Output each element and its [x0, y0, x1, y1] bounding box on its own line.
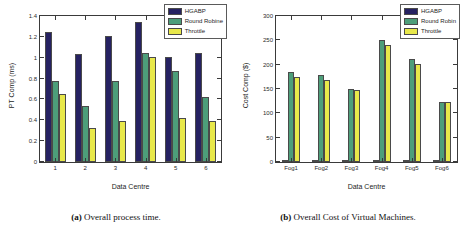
- y-axis-tick-label: 150: [263, 86, 273, 92]
- bar-hgabp: [135, 22, 142, 162]
- legend-swatch-icon: [168, 28, 182, 35]
- x-axis-tick-label: 6: [204, 165, 207, 171]
- y-axis-tick: [40, 15, 44, 16]
- y-axis-tick: [40, 140, 44, 141]
- bar-round-robine: [52, 81, 59, 162]
- bar-group: [135, 16, 156, 162]
- bar-round-robine: [82, 106, 89, 162]
- x-axis-tick: [321, 158, 322, 162]
- x-axis-tick: [291, 158, 292, 162]
- panel-b-legend: HGABPRound RobinThrottle: [400, 4, 460, 39]
- x-axis-tick-label: Fog2: [314, 165, 328, 171]
- bar-group: [342, 16, 360, 162]
- y-axis-tick-right: [217, 57, 221, 58]
- y-axis-tick-right: [217, 140, 221, 141]
- y-axis-tick: [40, 119, 44, 120]
- bar-hgabp: [105, 36, 112, 162]
- x-axis-tick-label: Fog3: [345, 165, 359, 171]
- y-axis-tick-label: 1: [34, 55, 37, 61]
- bar-throttle: [445, 102, 451, 162]
- x-axis-tick-top: [146, 16, 147, 20]
- y-axis-tick: [276, 39, 280, 40]
- legend-item: HGABP: [404, 7, 456, 16]
- panel-b-cost: 050100150200250300Fog1Fog2Fog3Fog4Fog5Fo…: [232, 0, 464, 228]
- x-axis-tick-label: 2: [84, 165, 87, 171]
- y-axis-tick-right: [453, 112, 457, 113]
- y-axis-tick: [40, 78, 44, 79]
- y-axis-tick: [276, 88, 280, 89]
- bar-throttle: [119, 121, 126, 162]
- y-axis-tick: [40, 98, 44, 99]
- y-axis-tick: [40, 57, 44, 58]
- bar-throttle: [415, 64, 421, 162]
- x-axis-tick-label: Fog5: [405, 165, 419, 171]
- y-axis-tick-label: 100: [263, 110, 273, 116]
- y-axis-tick-label: 0: [34, 159, 37, 165]
- legend-item: Throttle: [404, 27, 456, 36]
- bar-throttle: [324, 80, 330, 162]
- panel-b-caption-tag: (b): [280, 212, 291, 222]
- x-axis-tick-label: 1: [53, 165, 56, 171]
- x-axis-tick-label: Fog6: [435, 165, 449, 171]
- y-axis-tick: [40, 36, 44, 37]
- y-axis-tick-label: 0: [270, 159, 273, 165]
- bar-group: [105, 16, 126, 162]
- panel-a-caption: (a) Overall process time.: [0, 212, 232, 222]
- legend-item: Throttle: [168, 27, 223, 36]
- y-axis-tick-label: 0.4: [29, 117, 37, 123]
- x-axis-tick: [351, 158, 352, 162]
- x-axis-tick-top: [55, 16, 56, 20]
- bar-group: [282, 16, 300, 162]
- x-axis-tick-top: [382, 16, 383, 20]
- x-axis-tick: [115, 158, 116, 162]
- x-axis-tick-label: 4: [144, 165, 147, 171]
- x-axis-tick: [382, 158, 383, 162]
- legend-item-label: Round Robin: [421, 18, 456, 25]
- legend-item-label: HGABP: [421, 8, 442, 15]
- bar-group: [373, 16, 391, 162]
- legend-swatch-icon: [168, 18, 182, 25]
- panel-b-x-axis-title: Data Centre: [275, 183, 458, 190]
- bar-group: [45, 16, 66, 162]
- y-axis-tick-right: [217, 78, 221, 79]
- y-axis-tick: [40, 161, 44, 162]
- y-axis-tick-right: [453, 137, 457, 138]
- panel-b-plot-area: 050100150200250300Fog1Fog2Fog3Fog4Fog5Fo…: [232, 0, 464, 196]
- y-axis-tick-right: [217, 119, 221, 120]
- bar-round-robine: [202, 97, 209, 162]
- bar-throttle: [89, 128, 96, 162]
- panel-a-caption-text: Overall process time.: [84, 212, 161, 222]
- y-axis-tick: [276, 137, 280, 138]
- y-axis-tick-right: [453, 161, 457, 162]
- panel-a-x-axis-title: Data Centre: [39, 183, 222, 190]
- x-axis-tick-top: [321, 16, 322, 20]
- panel-b-caption-text: Overall Cost of Virtual Machines.: [294, 212, 416, 222]
- x-axis-tick-label: Fog4: [375, 165, 389, 171]
- panel-a-process-time: 00.20.40.60.811.21.4123456 PT Comp (ms) …: [0, 0, 232, 228]
- panel-a-y-axis-title: PT Comp (ms): [8, 49, 15, 123]
- y-axis-tick-right: [217, 161, 221, 162]
- bar-hgabp: [45, 32, 52, 162]
- bar-throttle: [385, 45, 391, 162]
- y-axis-tick: [276, 112, 280, 113]
- figure-two-panel-bar-charts: 00.20.40.60.811.21.4123456 PT Comp (ms) …: [0, 0, 464, 228]
- bar-throttle: [354, 90, 360, 163]
- x-axis-tick: [442, 158, 443, 162]
- y-axis-tick-label: 1.2: [29, 34, 37, 40]
- legend-item-label: HGABP: [185, 8, 206, 15]
- y-axis-tick: [276, 64, 280, 65]
- y-axis-tick: [276, 161, 280, 162]
- bar-hgabp: [195, 53, 202, 163]
- x-axis-tick: [412, 158, 413, 162]
- x-axis-tick: [85, 158, 86, 162]
- y-axis-tick-right: [453, 64, 457, 65]
- legend-item-label: Round Robine: [185, 18, 223, 25]
- y-axis-tick-right: [453, 39, 457, 40]
- bar-throttle: [59, 94, 66, 162]
- panel-b-y-axis-title: Cost Comp ($): [242, 49, 249, 123]
- y-axis-tick-right: [217, 98, 221, 99]
- legend-item-label: Throttle: [185, 28, 205, 35]
- y-axis-tick-label: 0.8: [29, 76, 37, 82]
- panel-a-plot-area: 00.20.40.60.811.21.4123456 PT Comp (ms) …: [0, 0, 232, 196]
- y-axis-tick-label: 300: [263, 13, 273, 19]
